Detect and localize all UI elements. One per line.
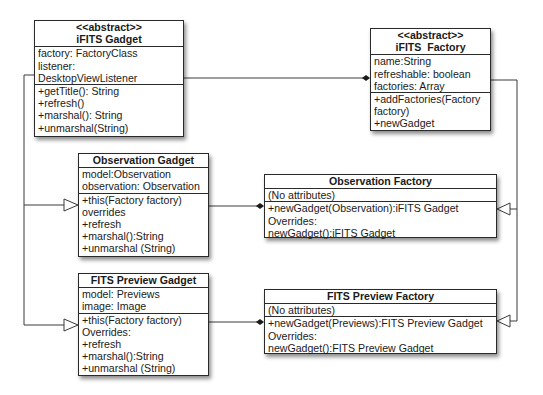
- class-name: Observation Factory: [267, 175, 494, 187]
- method: +getTitle(): String: [38, 85, 180, 97]
- stereotype-label: <<abstract>>: [37, 21, 181, 33]
- attribute: refreshable: boolean: [374, 68, 487, 80]
- class-name: FITS Preview Gadget: [81, 274, 206, 286]
- attributes-section: name:String refreshable: boolean factori…: [371, 55, 490, 93]
- attribute: factory: FactoryClass: [38, 47, 180, 59]
- methods-section: +this(Factory factory) Overrides: +refre…: [79, 314, 208, 375]
- method: +refresh: [82, 338, 205, 350]
- composition-diamond-icon: [362, 75, 370, 81]
- attributes-section: model:Observation observation: Observati…: [79, 168, 208, 193]
- method: +newGadget: [374, 117, 487, 129]
- class-header: <<abstract>> iFITS Gadget: [35, 21, 183, 47]
- method: overrides: [82, 206, 205, 218]
- method: +marshal(): String: [38, 109, 180, 121]
- class-header: FITS Preview Factory: [265, 290, 496, 304]
- methods-section: +this(Factory factory) overrides +refres…: [79, 194, 208, 255]
- attribute: (No attributes): [268, 189, 493, 201]
- generalization-arrow-icon: [497, 203, 510, 215]
- method: +newGadget(Observation):iFITS Gadget: [268, 202, 493, 214]
- method: +unmarshal(String): [38, 122, 180, 134]
- class-header: <<abstract>> iFITS Factory: [371, 29, 490, 55]
- method: Overrides:: [268, 215, 493, 227]
- methods-section: +newGadget(Previews):FITS Preview Gadget…: [265, 317, 496, 354]
- method: +marshal():String: [82, 350, 205, 362]
- attributes-section: (No attributes): [265, 304, 496, 317]
- method: +unmarshal (String): [82, 242, 205, 254]
- attribute: factories: Array: [374, 80, 487, 92]
- class-name: iFITS Factory: [373, 41, 488, 53]
- attribute: listener:: [38, 60, 180, 72]
- class-ifits-factory[interactable]: <<abstract>> iFITS Factory name:String r…: [370, 28, 491, 131]
- method: Overrides:: [268, 330, 493, 342]
- method: +unmarshal (String): [82, 362, 205, 374]
- method: +this(Factory factory): [82, 314, 205, 326]
- method: +newGadget(Previews):FITS Preview Gadget: [268, 317, 493, 329]
- attribute: observation: Observation: [82, 180, 205, 192]
- class-observation-factory[interactable]: Observation Factory (No attributes) +new…: [264, 174, 497, 238]
- method: +refresh(): [38, 97, 180, 109]
- class-name: Observation Gadget: [81, 154, 206, 166]
- method: +refresh: [82, 218, 205, 230]
- attribute: model:Observation: [82, 168, 205, 180]
- generalization-arrow-icon: [64, 319, 78, 331]
- class-fits-preview-gadget[interactable]: FITS Preview Gadget model: Previews imag…: [78, 273, 209, 376]
- methods-section: +addFactories(Factory factory) +newGadge…: [371, 93, 490, 130]
- generalization-arrow-icon: [64, 199, 78, 211]
- stereotype-label: <<abstract>>: [373, 29, 488, 41]
- attribute: (No attributes): [268, 304, 493, 316]
- method: +this(Factory factory): [82, 194, 205, 206]
- attributes-section: factory: FactoryClass listener: DesktopV…: [35, 47, 183, 85]
- method: factory): [374, 105, 487, 117]
- class-observation-gadget[interactable]: Observation Gadget model:Observation obs…: [78, 153, 209, 257]
- class-fits-preview-factory[interactable]: FITS Preview Factory (No attributes) +ne…: [264, 289, 497, 354]
- attributes-section: (No attributes): [265, 189, 496, 202]
- method: +marshal():String: [82, 230, 205, 242]
- composition-diamond-icon: [256, 319, 264, 325]
- attribute: name:String: [374, 55, 487, 67]
- class-header: Observation Gadget: [79, 154, 208, 168]
- attributes-section: model: Previews image: Image: [79, 288, 208, 313]
- class-ifits-gadget[interactable]: <<abstract>> iFITS Gadget factory: Facto…: [34, 20, 184, 137]
- class-name: iFITS Gadget: [37, 33, 181, 45]
- attribute: image: Image: [82, 300, 205, 312]
- composition-diamond-icon: [256, 203, 264, 209]
- method: Overrides:: [82, 326, 205, 338]
- method: newGadget():iFITS Gadget: [268, 227, 493, 239]
- method: +addFactories(Factory: [374, 93, 487, 105]
- methods-section: +newGadget(Observation):iFITS Gadget Ove…: [265, 202, 496, 239]
- class-header: FITS Preview Gadget: [79, 274, 208, 288]
- class-header: Observation Factory: [265, 175, 496, 189]
- generalization-arrow-icon: [497, 315, 510, 327]
- methods-section: +getTitle(): String +refresh() +marshal(…: [35, 85, 183, 134]
- class-name: FITS Preview Factory: [267, 290, 494, 302]
- attribute: DesktopViewListener: [38, 72, 180, 84]
- attribute: model: Previews: [82, 288, 205, 300]
- method: newGadget():FITS Preview Gadget: [268, 342, 493, 354]
